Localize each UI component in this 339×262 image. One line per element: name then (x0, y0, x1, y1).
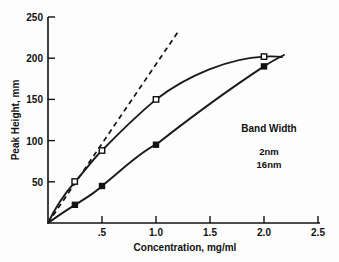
data-point-2nm-2.0 (261, 54, 266, 59)
series-line-2nm (48, 56, 282, 223)
axis-lines (48, 17, 320, 223)
data-point-16nm-0.25 (72, 202, 77, 207)
legend-title: Band Width (241, 123, 296, 134)
y-tick-label-250: 250 (26, 12, 43, 23)
y-tick-label-100: 100 (26, 136, 43, 147)
x-axis-title: Concentration, mg/ml (134, 242, 237, 253)
x-tick-label-20: 2.0 (257, 227, 271, 238)
chart-container: 250 200 150 100 50 .5 1.0 1.5 2.0 2.5 Co… (0, 0, 339, 262)
x-tick-label-10: 1.0 (149, 227, 163, 238)
data-point-16nm-1.0 (153, 142, 158, 147)
y-axis-ticks (48, 17, 55, 182)
legend: Band Width 2nm 16nm (241, 123, 296, 170)
legend-entry-2nm: 2nm (259, 146, 279, 157)
data-point-2nm-0.25 (72, 179, 77, 184)
data-point-2nm-0.5 (99, 148, 104, 153)
data-point-2nm-1.0 (153, 97, 158, 102)
chart-svg: 250 200 150 100 50 .5 1.0 1.5 2.0 2.5 Co… (0, 0, 339, 262)
x-tick-label-05: .5 (98, 227, 107, 238)
x-tick-label-15: 1.5 (203, 227, 217, 238)
y-tick-label-200: 200 (26, 53, 43, 64)
x-tick-label-25: 2.5 (311, 227, 325, 238)
y-tick-label-150: 150 (26, 94, 43, 105)
y-tick-label-50: 50 (32, 177, 44, 188)
series-line-reference-dashed (48, 32, 178, 223)
legend-entry-16nm: 16nm (257, 159, 282, 170)
y-axis-title: Peak Height, mm (10, 80, 21, 161)
data-point-16nm-2.0 (261, 64, 266, 69)
x-axis-ticks (102, 216, 318, 223)
data-point-16nm-0.5 (99, 183, 104, 188)
series-line-16nm (48, 55, 284, 223)
series-markers-2nm (72, 54, 267, 184)
